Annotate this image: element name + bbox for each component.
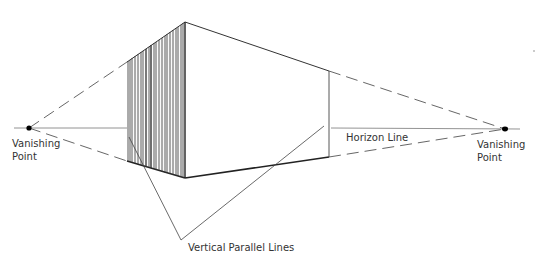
stray-mark xyxy=(533,50,535,52)
horizon-line-right xyxy=(331,128,520,129)
vanishing-point-right-label: Vanishing Point xyxy=(477,138,525,164)
dashed-convergence-line xyxy=(29,62,127,128)
label-line: Vanishing xyxy=(12,137,60,150)
vanishing-point-left-dot xyxy=(26,125,31,130)
vertical-parallel-lines-label: Vertical Parallel Lines xyxy=(188,241,294,254)
vanishing-point-right-dot xyxy=(502,127,508,132)
diagram-canvas xyxy=(0,0,536,271)
label-line: Point xyxy=(12,150,60,163)
perspective-diagram: Vanishing Point Vanishing Point Horizon … xyxy=(0,0,536,271)
label-line: Point xyxy=(477,151,525,164)
dashed-convergence-line xyxy=(329,71,505,129)
box-left-face xyxy=(127,22,185,178)
vanishing-point-left-label: Vanishing Point xyxy=(12,137,60,163)
box-right-face xyxy=(185,22,329,178)
horizon-line-label: Horizon Line xyxy=(346,131,408,144)
label-line: Vanishing xyxy=(477,138,525,151)
pointer-line xyxy=(181,126,324,240)
